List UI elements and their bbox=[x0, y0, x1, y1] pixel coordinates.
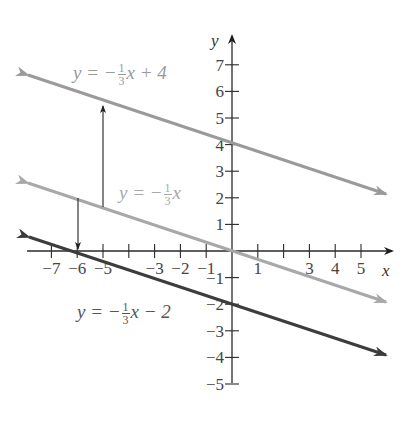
x-axis-tick-labels: −7−6−5−3−2−11345 bbox=[42, 259, 365, 278]
x-tick-label: 4 bbox=[331, 259, 340, 278]
eq-mid-fraction: 13 bbox=[164, 182, 172, 207]
equation-label-middle: y = −13x bbox=[119, 182, 181, 207]
chart-svg: −7−6−5−3−2−11345 x 7654321−1−2−3−4−5 y bbox=[0, 0, 409, 428]
y-tick-label: −5 bbox=[206, 375, 224, 394]
y-axis: 7654321−1−2−3−4−5 y bbox=[206, 31, 239, 394]
y-axis-tick-labels: 7654321−1−2−3−4−5 bbox=[206, 56, 225, 394]
eq-top-suffix: x + 4 bbox=[127, 62, 167, 83]
equation-label-top: y = −13x + 4 bbox=[73, 62, 167, 87]
eq-bot-fraction: 13 bbox=[122, 301, 130, 326]
y-tick-label: 7 bbox=[216, 56, 225, 75]
line-y-minus-third-x-plus-4 bbox=[28, 75, 386, 194]
y-tick-label: −3 bbox=[206, 322, 224, 341]
eq-top-prefix: y = − bbox=[73, 62, 117, 83]
eq-mid-prefix: y = − bbox=[119, 182, 163, 203]
x-tick-label: 5 bbox=[357, 259, 366, 278]
y-tick-label: 2 bbox=[216, 189, 225, 208]
y-tick-label: 3 bbox=[216, 162, 225, 181]
y-tick-label: 1 bbox=[216, 215, 225, 234]
eq-mid-suffix: x bbox=[173, 182, 181, 203]
y-tick-label: −4 bbox=[206, 348, 225, 367]
equation-label-bottom: y = −13x − 2 bbox=[77, 301, 171, 326]
eq-bot-prefix: y = − bbox=[77, 301, 121, 322]
y-axis-label: y bbox=[209, 31, 219, 50]
x-axis-label: x bbox=[381, 261, 390, 280]
eq-bot-suffix: x − 2 bbox=[131, 301, 171, 322]
eq-top-den: 3 bbox=[118, 75, 126, 87]
y-tick-label: 6 bbox=[216, 82, 225, 101]
x-tick-label: −7 bbox=[42, 259, 61, 278]
x-tick-label: −2 bbox=[171, 259, 189, 278]
x-tick-label: −6 bbox=[68, 259, 86, 278]
eq-bot-den: 3 bbox=[122, 314, 130, 326]
eq-mid-den: 3 bbox=[164, 195, 172, 207]
eq-top-fraction: 13 bbox=[118, 62, 126, 87]
y-tick-label: 5 bbox=[216, 109, 225, 128]
y-tick-label: −1 bbox=[206, 269, 224, 288]
